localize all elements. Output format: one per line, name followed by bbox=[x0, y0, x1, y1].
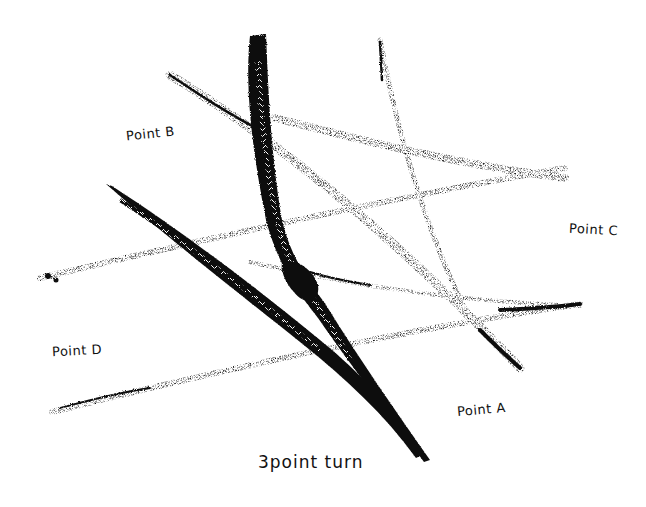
tire-tracks-drawing bbox=[0, 0, 646, 507]
track-upper-to-c bbox=[275, 118, 565, 178]
track-crossing-blob bbox=[282, 261, 319, 301]
diagram-caption: 3point turn bbox=[258, 452, 363, 472]
label-point-c: Point C bbox=[569, 221, 619, 239]
track-middle-d-to-c bbox=[40, 168, 565, 278]
label-point-d: Point D bbox=[52, 342, 103, 360]
track-lower-d-to-a bbox=[52, 304, 580, 412]
three-point-turn-diagram: Point B Point C Point D Point A 3point t… bbox=[0, 0, 646, 507]
light-tracks bbox=[40, 40, 580, 412]
